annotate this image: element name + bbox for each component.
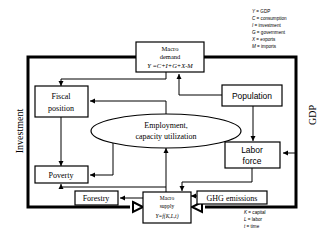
macro-supply-line1: Macro: [160, 195, 175, 201]
svg-text:K = capital: K = capital: [244, 210, 266, 215]
svg-text:X = exports: X = exports: [251, 37, 276, 42]
svg-text:G = government: G = government: [252, 30, 286, 35]
svg-text:C = consumption: C = consumption: [252, 16, 287, 21]
employment-line1: Employment,: [144, 121, 187, 130]
node-employment: [91, 114, 241, 148]
legend-top: Y = GDP C = consumption I = investment G…: [251, 9, 287, 49]
labor-force-line2: force: [243, 156, 262, 166]
ghg-emissions-label: GHG emissions: [207, 194, 258, 203]
svg-text:M = imports: M = imports: [252, 44, 277, 49]
diagram-canvas: Macro demand Y =C+I+G+X-M Fiscal positio…: [0, 0, 334, 245]
poverty-label: Poverty: [49, 171, 74, 180]
labor-force-line1: Labor: [241, 145, 263, 155]
fiscal-position-line2: position: [48, 104, 74, 113]
employment-line2: capacity utilization: [135, 132, 196, 141]
svg-text:t = time: t = time: [244, 224, 260, 229]
macro-supply-formula: Y=f(K,L,t): [156, 213, 179, 220]
legend-bottom: K = capital L = labor t = time: [244, 210, 266, 229]
macro-demand-line1: Macro: [162, 45, 179, 52]
macro-demand-line2: demand: [160, 53, 181, 60]
macro-demand-formula: Y =C+I+G+X-M: [147, 62, 193, 69]
gdp-side-label: GDP: [307, 105, 318, 125]
open-arrow-left: [133, 202, 143, 212]
macro-supply-line2: supply: [160, 203, 175, 209]
population-label: Population: [232, 91, 272, 101]
svg-text:L = labor: L = labor: [244, 217, 262, 222]
svg-text:Y = GDP: Y = GDP: [252, 9, 270, 14]
forestry-label: Forestry: [83, 194, 110, 203]
fiscal-position-line1: Fiscal: [51, 92, 71, 101]
svg-text:I = investment: I = investment: [252, 23, 281, 28]
investment-side-label: Investment: [14, 109, 25, 154]
